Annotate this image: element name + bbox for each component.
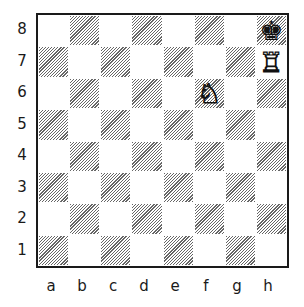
square-g5 [225,109,256,140]
square-b5 [69,109,100,140]
file-label-e: e [165,277,185,295]
square-g6 [225,78,256,109]
file-label-d: d [134,277,154,295]
square-b4 [69,141,100,172]
rank-label-3: 3 [14,178,30,196]
file-label-c: c [103,277,123,295]
square-g1 [225,235,256,266]
file-label-f: f [196,277,216,295]
square-e4 [163,141,194,172]
rank-label-5: 5 [14,115,30,133]
rank-label-2: 2 [14,209,30,227]
square-a2 [38,203,69,234]
square-h6 [256,78,287,109]
square-d5 [131,109,162,140]
rank-label-4: 4 [14,146,30,164]
white-rook-icon: ♖ [259,49,283,76]
square-a8 [38,15,69,46]
square-h1 [256,235,287,266]
rank-label-1: 1 [14,241,30,259]
file-label-a: a [41,277,61,295]
square-f2 [194,203,225,234]
square-a3 [38,172,69,203]
square-d1 [131,235,162,266]
square-f5 [194,109,225,140]
square-h8: ♚ [256,15,287,46]
square-e5 [163,109,194,140]
square-e8 [163,15,194,46]
rank-label-6: 6 [14,83,30,101]
square-e3 [163,172,194,203]
square-e6 [163,78,194,109]
square-d6 [131,78,162,109]
square-h7: ♖ [256,46,287,77]
square-a5 [38,109,69,140]
square-a1 [38,235,69,266]
square-e2 [163,203,194,234]
square-c3 [100,172,131,203]
square-e1 [163,235,194,266]
square-f6: ♘ [194,78,225,109]
square-g4 [225,141,256,172]
file-label-b: b [72,277,92,295]
square-g2 [225,203,256,234]
square-h5 [256,109,287,140]
square-d8 [131,15,162,46]
square-c8 [100,15,131,46]
square-h2 [256,203,287,234]
black-king-icon: ♚ [259,17,283,44]
file-label-h: h [258,277,278,295]
square-a6 [38,78,69,109]
white-knight-icon: ♘ [197,80,221,107]
square-c2 [100,203,131,234]
square-b7 [69,46,100,77]
square-d2 [131,203,162,234]
square-c6 [100,78,131,109]
square-f7 [194,46,225,77]
square-c5 [100,109,131,140]
square-d3 [131,172,162,203]
square-f1 [194,235,225,266]
square-f3 [194,172,225,203]
square-d7 [131,46,162,77]
square-g8 [225,15,256,46]
square-d4 [131,141,162,172]
square-a4 [38,141,69,172]
file-label-g: g [227,277,247,295]
square-b6 [69,78,100,109]
square-b3 [69,172,100,203]
square-h4 [256,141,287,172]
chess-board: ♚♖♘ [36,13,289,268]
square-a7 [38,46,69,77]
square-h3 [256,172,287,203]
square-b1 [69,235,100,266]
square-b2 [69,203,100,234]
square-f4 [194,141,225,172]
rank-label-7: 7 [14,52,30,70]
square-g7 [225,46,256,77]
square-c1 [100,235,131,266]
square-b8 [69,15,100,46]
square-c4 [100,141,131,172]
square-c7 [100,46,131,77]
square-f8 [194,15,225,46]
rank-label-8: 8 [14,20,30,38]
square-g3 [225,172,256,203]
square-e7 [163,46,194,77]
